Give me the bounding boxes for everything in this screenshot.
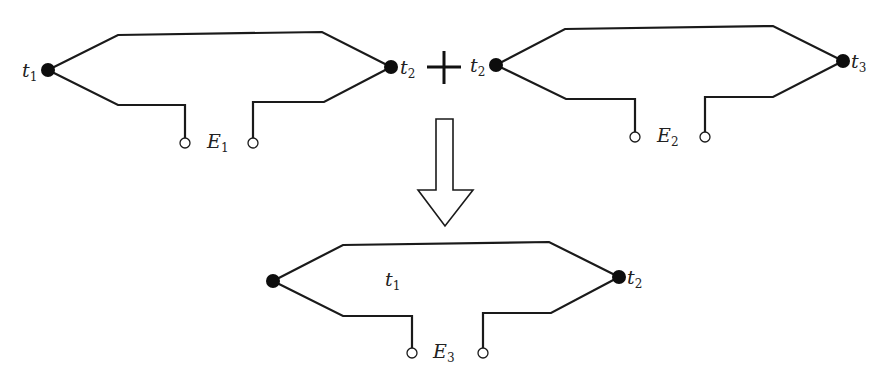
tc3-lower-right-wire [483,277,619,349]
tc3-emf-label: E3 [432,340,455,365]
tc2-right-junction-dot [836,54,850,68]
tc2-left-junction-label: t2 [470,54,485,79]
thermocouple-1: t1 t2 E1 [22,32,415,155]
tc3-left-junction-dot [266,274,280,288]
thermocouple-2: t2 t3 E2 [470,26,866,149]
plus-icon [427,51,461,84]
down-arrow-icon [418,119,473,226]
tc1-right-terminal [248,138,258,148]
tc3-right-junction-dot [612,270,626,284]
tc1-emf-label: E1 [206,130,229,155]
tc2-lower-right-wire [705,61,843,133]
tc3-inner-label: t1 [385,268,400,293]
tc3-right-terminal [478,348,488,358]
thermocouple-3: t1 t2 E3 [266,242,642,365]
tc2-emf-label: E2 [656,124,679,149]
tc2-left-terminal [630,132,640,142]
tc2-lower-left-wire [496,65,635,133]
tc2-right-junction-label: t3 [851,50,866,75]
tc3-lower-left-wire [273,281,412,349]
tc2-upper-wire [496,26,843,65]
tc1-right-junction-label: t2 [400,56,415,81]
tc1-left-terminal [180,138,190,148]
tc2-left-junction-dot [489,58,503,72]
tc2-right-terminal [700,132,710,142]
tc1-upper-wire [48,32,391,70]
tc1-lower-right-wire [253,67,391,139]
tc1-lower-left-wire [48,70,185,139]
tc3-right-junction-label: t2 [627,266,642,291]
tc1-left-junction-dot [41,63,55,77]
thermocouple-diagram: t1 t2 E1 t2 t3 E2 t1 t2 E3 [0,0,893,377]
tc3-upper-wire [273,242,619,281]
tc3-left-terminal [407,348,417,358]
tc1-left-junction-label: t1 [22,59,37,84]
tc1-right-junction-dot [384,60,398,74]
